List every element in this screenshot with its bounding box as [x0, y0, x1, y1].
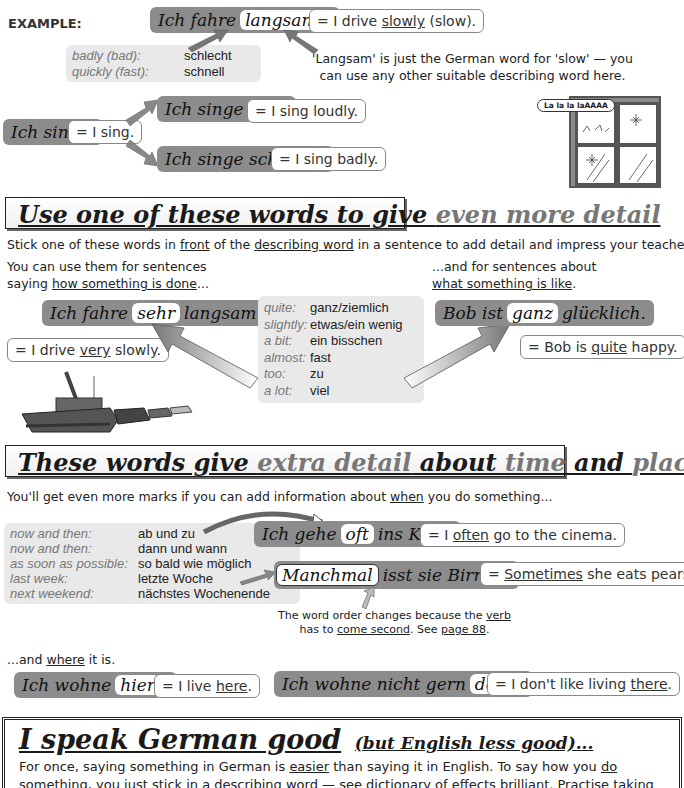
vocab-value: zu	[310, 366, 324, 381]
section1-left-caption: You can use them for sentences saying ho…	[7, 258, 209, 292]
vocab-row: slightly:etwas/ein wenig	[264, 317, 418, 334]
vocab-row: next weekend:nächstes Wochenende	[10, 586, 294, 601]
vocab-value: dann und wann	[138, 541, 227, 556]
example-translation: = I drive slowly (slow).	[309, 9, 484, 33]
translation-pre: =	[488, 566, 504, 582]
body-line: something, you just stick in a describin…	[19, 776, 665, 788]
arrow-up-icon	[358, 585, 378, 609]
sing-loud-translation-text: = I sing loudly.	[255, 103, 358, 119]
caption-text: ...	[197, 276, 209, 291]
vocab-key: last week:	[10, 571, 138, 586]
example-translation-underlined: slowly	[382, 13, 425, 29]
section2-title-highlight: place	[632, 448, 684, 477]
german-highlight: ganz	[507, 303, 558, 323]
body-text: For once, saying something in German is	[19, 759, 289, 774]
translation-pre: = I	[428, 527, 453, 543]
vocab-row: a bit:ein bisschen	[264, 333, 418, 350]
arrow-icon	[238, 568, 278, 586]
section3-subtitle: (but English less good)...	[355, 733, 594, 753]
german-post: glücklich.	[562, 303, 646, 323]
translation-underlined: very	[80, 342, 111, 358]
caption-text: ...and	[7, 652, 46, 667]
german-pre: Ich gehe	[262, 524, 337, 544]
section3-title: I speak German good	[19, 724, 341, 755]
translation-post: go to the cinema.	[489, 527, 617, 543]
section1-title-highlight: even more detail	[436, 200, 661, 229]
caption-text: it is.	[85, 652, 115, 667]
german-highlight: Manchmal	[276, 564, 379, 586]
vocab-row: too:zu	[264, 366, 418, 383]
caption-line: You can use them for sentences	[7, 258, 209, 275]
intro-underlined: describing word	[254, 237, 354, 252]
vocab-key: next weekend:	[10, 586, 138, 601]
vocab-value: letzte Woche	[138, 571, 213, 586]
section3-box: I speak German good (but English less go…	[2, 717, 682, 788]
caption-text: .	[572, 276, 576, 291]
vocab-row: quite:ganz/ziemlich	[264, 300, 418, 317]
hier-translation: = I live here.	[154, 674, 260, 698]
vocab-value: ab und zu	[138, 526, 195, 541]
sehr-translation: = I drive very slowly.	[7, 338, 169, 362]
section2-title-part: These words give	[18, 448, 257, 477]
german-highlight: sehr	[132, 303, 180, 323]
vocab-value: ganz/ziemlich	[310, 300, 389, 315]
arrow-down-right-icon	[124, 140, 160, 170]
note-text: The word order changes because the	[278, 609, 486, 622]
section3-heading: I speak German good (but English less go…	[5, 720, 679, 755]
body-underlined: easier	[289, 759, 329, 774]
german-pre: Bob ist	[443, 303, 503, 323]
example-note-line2: can use any other suitable describing wo…	[312, 67, 633, 84]
word-order-note: The word order changes because the verb …	[278, 609, 511, 637]
sing-bad-translation-text: = I sing badly.	[279, 151, 378, 167]
vocab-key: slightly:	[264, 317, 310, 334]
note-underlined: verb	[486, 609, 511, 622]
translation-pre: = Bob is	[528, 339, 591, 355]
vocab-value: ein bisschen	[310, 333, 382, 348]
vocab-key: almost:	[264, 350, 310, 367]
intro-text: Stick one of these words in	[7, 237, 180, 252]
vocab-row: a lot:viel	[264, 383, 418, 400]
intro-text: you do something...	[424, 489, 553, 504]
intro-text: You'll get even more marks if you can ad…	[7, 489, 390, 504]
where-caption: ...and where it is.	[7, 652, 115, 667]
vocab-key: quite:	[264, 300, 310, 317]
example-note-line1: 'Langsam' is just the German word for 's…	[312, 50, 633, 67]
manchmal-translation: = Sometimes she eats pears.	[480, 562, 684, 586]
german-highlight: oft	[341, 524, 374, 544]
intro-underlined: when	[390, 489, 424, 504]
vocab-value: schnell	[184, 64, 224, 79]
section2-title-part: about	[411, 448, 505, 477]
german-pre: Ich wohne	[22, 675, 111, 695]
vocab-value: viel	[310, 383, 330, 398]
hier-german-sentence: Ich wohne hier .	[14, 672, 177, 698]
section2-title-highlight: extra detail	[257, 448, 411, 477]
example-translation-post: (slow).	[425, 13, 476, 29]
caption-line: ...and for sentences about	[432, 258, 596, 275]
vocab-value: so bald wie möglich	[138, 556, 251, 571]
translation-pre: = I drive	[15, 342, 80, 358]
translation-post: .	[668, 676, 672, 692]
example-translation-pre: = I drive	[317, 13, 382, 29]
example-note: 'Langsam' is just the German word for 's…	[312, 50, 633, 84]
section2-title-highlight: time	[505, 448, 566, 477]
note-text: .	[486, 623, 490, 636]
arrow-up-right-icon	[124, 98, 160, 128]
caption-text: saying	[7, 276, 52, 291]
vocab-key: now and then:	[10, 541, 138, 556]
caption-underlined: how something is done	[52, 276, 197, 291]
section3-body: For once, saying something in German is …	[5, 755, 679, 788]
intro-text: in a sentence to add detail and impress …	[354, 237, 684, 252]
arrow-icon	[186, 28, 230, 52]
german-post: langsam.	[184, 303, 262, 323]
vocab-row: now and then:dann und wann	[10, 541, 294, 556]
body-text: than saying it in English. To say how yo…	[329, 759, 601, 774]
vocab-key: a bit:	[264, 333, 310, 350]
section1-title-part: Use one of these words to give	[18, 200, 436, 229]
section2-heading: These words give extra detail about time…	[5, 445, 565, 477]
translation-underlined: there	[631, 676, 668, 692]
sing-bad-translation: = I sing badly.	[271, 147, 386, 171]
page-88-link[interactable]: page 88	[441, 623, 486, 636]
translation-pre: = I don't like living	[495, 676, 631, 692]
vocab-value: fast	[310, 350, 331, 365]
window-panes-icon	[575, 102, 659, 186]
